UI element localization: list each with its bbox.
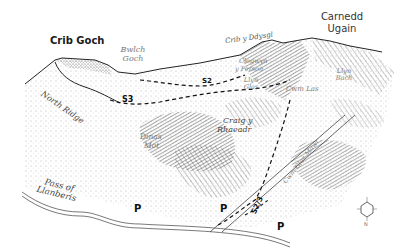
label-carnedd-ugain: Carnedd Ugain	[312, 12, 372, 34]
route-marker-s2: S2	[202, 78, 212, 85]
label-carnedd: Carnedd	[312, 12, 372, 22]
parking-marker-1: P	[134, 204, 141, 214]
label-llyn-glas: Llyn Glas	[240, 77, 262, 90]
label-crib-goch: Crib Goch	[50, 36, 104, 46]
illustrated-map: Crib Goch Carnedd Ugain Bwlch Goch Crib …	[0, 0, 412, 249]
compass-rose	[357, 197, 377, 221]
label-cwm-las: Cwm Las	[286, 86, 319, 93]
label-dinas-mot: Dinas Mot	[140, 133, 162, 149]
label-clogwyn-y-person: Clogwyn y Person	[239, 58, 268, 72]
label-ugain: Ugain	[312, 24, 372, 34]
label-craig-y-rhaeadr: Craig y Rhaeadr	[223, 117, 252, 134]
parking-marker-2: P	[220, 204, 227, 214]
route-marker-s3: S3	[122, 96, 133, 104]
parking-marker-3: P	[277, 222, 284, 232]
label-llyn-bach: Llyn Bach	[333, 68, 355, 81]
label-bwlch-goch: Bwlch Goch	[118, 46, 148, 63]
compass-north-label: N	[364, 222, 368, 227]
